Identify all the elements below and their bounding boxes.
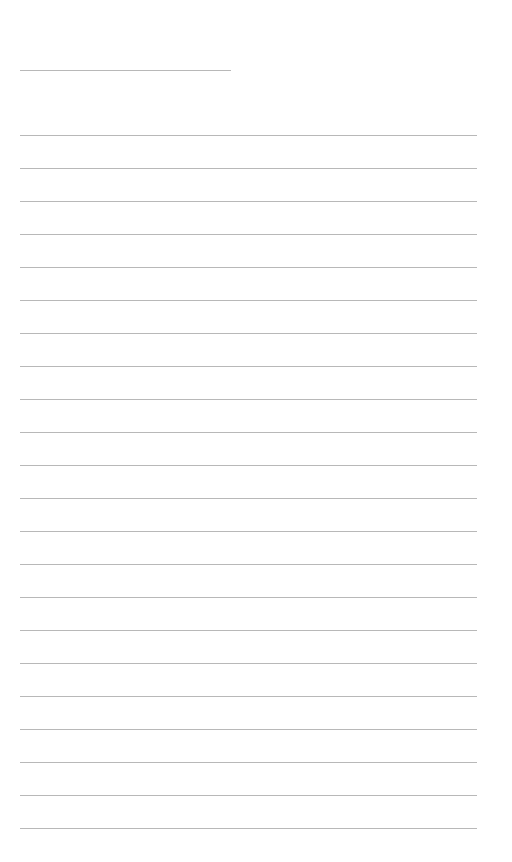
title-line xyxy=(20,70,231,71)
ruled-line xyxy=(20,597,477,598)
ruled-line xyxy=(20,531,477,532)
ruled-line xyxy=(20,432,477,433)
ruled-line xyxy=(20,696,477,697)
ruled-line xyxy=(20,630,477,631)
ruled-line xyxy=(20,564,477,565)
ruled-line xyxy=(20,168,477,169)
ruled-line xyxy=(20,663,477,664)
ruled-line xyxy=(20,135,477,136)
ruled-line xyxy=(20,729,477,730)
ruled-line xyxy=(20,366,477,367)
ruled-line xyxy=(20,465,477,466)
ruled-line xyxy=(20,300,477,301)
ruled-line xyxy=(20,333,477,334)
ruled-line xyxy=(20,762,477,763)
ruled-line xyxy=(20,498,477,499)
ruled-line xyxy=(20,267,477,268)
ruled-line xyxy=(20,399,477,400)
ruled-line xyxy=(20,795,477,796)
ruled-line xyxy=(20,234,477,235)
ruled-line xyxy=(20,201,477,202)
ruled-line xyxy=(20,828,477,829)
